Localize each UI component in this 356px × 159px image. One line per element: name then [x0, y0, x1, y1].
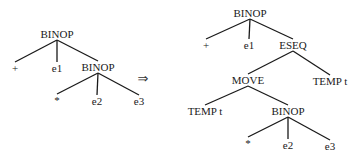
tree-edge	[98, 73, 139, 95]
node-eseq: ESEQ	[279, 40, 307, 51]
node-binop: BINOP	[81, 62, 114, 73]
tree-edge	[57, 40, 98, 61]
tree-edges	[0, 0, 356, 159]
tree-edge	[97, 73, 98, 95]
tree-edge	[248, 86, 288, 105]
tree-edge	[248, 117, 288, 137]
node-move: MOVE	[232, 75, 264, 86]
node-temp-t: TEMP t	[188, 106, 223, 117]
rewrite-arrow-icon: ⇒	[138, 72, 149, 85]
tree-edge	[249, 19, 250, 39]
tree-edge	[293, 51, 330, 75]
tree-edge	[206, 19, 250, 39]
node-times-operator: *	[245, 138, 251, 149]
tree-edge	[248, 51, 293, 74]
node-e3: e3	[325, 141, 335, 152]
node-e2: e2	[283, 140, 293, 151]
node-binop: BINOP	[233, 8, 266, 19]
node-plus-operator: +	[12, 63, 18, 74]
tree-rewrite-diagram: BINOP+e1BINOP*e2e3 ⇒ BINOP+e1ESEQMOVETEM…	[0, 0, 356, 159]
node-e1: e1	[244, 40, 254, 51]
tree-edge	[250, 19, 293, 39]
tree-edge	[57, 73, 98, 94]
node-e3: e3	[134, 96, 144, 107]
node-binop: BINOP	[40, 29, 73, 40]
node-plus-operator: +	[203, 40, 209, 51]
tree-edge	[288, 117, 330, 140]
tree-edge	[15, 40, 57, 62]
node-binop: BINOP	[271, 106, 304, 117]
node-temp-t: TEMP t	[313, 76, 348, 87]
node-e1: e1	[52, 63, 62, 74]
node-e2: e2	[92, 96, 102, 107]
node-times-operator: *	[54, 95, 60, 106]
tree-edge	[205, 86, 248, 105]
